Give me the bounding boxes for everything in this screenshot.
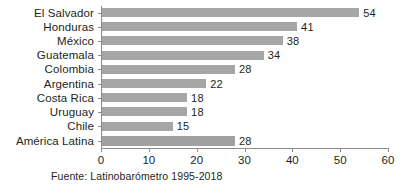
- y-tick: [98, 27, 102, 28]
- y-tick: [98, 41, 102, 42]
- x-tick: [388, 148, 389, 152]
- bar: [101, 93, 187, 102]
- bar: [101, 107, 187, 116]
- x-tick: [292, 148, 293, 152]
- category-label: Argentina: [44, 78, 94, 90]
- bar-value-label: 22: [210, 78, 223, 90]
- x-tick-label: 0: [98, 154, 104, 166]
- bar: [101, 36, 283, 45]
- bar-row: Colombia28: [101, 65, 388, 74]
- category-label: Honduras: [43, 21, 94, 33]
- bar-row: Costa Rica18: [101, 93, 388, 102]
- x-tick: [101, 148, 102, 152]
- x-tick-label: 50: [334, 154, 347, 166]
- y-tick: [98, 141, 102, 142]
- category-label: Colombia: [45, 63, 94, 75]
- category-label: Chile: [67, 120, 94, 132]
- x-tick: [340, 148, 341, 152]
- bar-row: Argentina22: [101, 79, 388, 88]
- bar-chart: El Salvador54Honduras41México38Guatemala…: [0, 0, 416, 193]
- bar: [101, 8, 359, 17]
- bar-value-label: 18: [191, 106, 204, 118]
- y-tick: [98, 69, 102, 70]
- bar-value-label: 54: [363, 7, 376, 19]
- source-caption: Fuente: Latinobarómetro 1995-2018: [51, 170, 222, 182]
- y-tick: [98, 98, 102, 99]
- bar-row: Guatemala34: [101, 51, 388, 60]
- x-tick: [245, 148, 246, 152]
- y-tick: [98, 126, 102, 127]
- x-tick-label: 30: [238, 154, 251, 166]
- x-tick-label: 40: [286, 154, 299, 166]
- category-label: Costa Rica: [37, 92, 94, 104]
- y-tick: [98, 55, 102, 56]
- bar-value-label: 28: [239, 135, 252, 147]
- plot-area: El Salvador54Honduras41México38Guatemala…: [101, 6, 388, 148]
- bar: [101, 79, 206, 88]
- bar: [101, 65, 235, 74]
- x-tick: [149, 148, 150, 152]
- bar-row: El Salvador54: [101, 8, 388, 17]
- bar-row: México38: [101, 36, 388, 45]
- category-label: Guatemala: [37, 49, 94, 61]
- bar-value-label: 34: [268, 49, 281, 61]
- category-label: América Latina: [16, 135, 94, 147]
- bar-value-label: 15: [177, 120, 190, 132]
- bar-row: Honduras41: [101, 22, 388, 31]
- bar: [101, 136, 235, 146]
- bar-row: América Latina28: [101, 136, 388, 146]
- x-tick: [197, 148, 198, 152]
- category-label: Uruguay: [50, 106, 94, 118]
- bar: [101, 22, 297, 31]
- x-axis: 0102030405060: [101, 148, 389, 149]
- category-label: México: [57, 35, 94, 47]
- bar-value-label: 18: [191, 92, 204, 104]
- bar: [101, 122, 173, 131]
- y-tick: [98, 112, 102, 113]
- bar-row: Chile15: [101, 122, 388, 131]
- bar-row: Uruguay18: [101, 107, 388, 116]
- bar-value-label: 41: [301, 21, 314, 33]
- bar: [101, 51, 264, 60]
- x-tick-label: 10: [142, 154, 155, 166]
- x-tick-label: 20: [190, 154, 203, 166]
- bar-value-label: 38: [287, 35, 300, 47]
- y-axis: [101, 6, 102, 149]
- y-tick: [98, 84, 102, 85]
- bar-value-label: 28: [239, 63, 252, 75]
- category-label: El Salvador: [34, 7, 94, 19]
- x-tick-label: 60: [382, 154, 395, 166]
- y-tick: [98, 13, 102, 14]
